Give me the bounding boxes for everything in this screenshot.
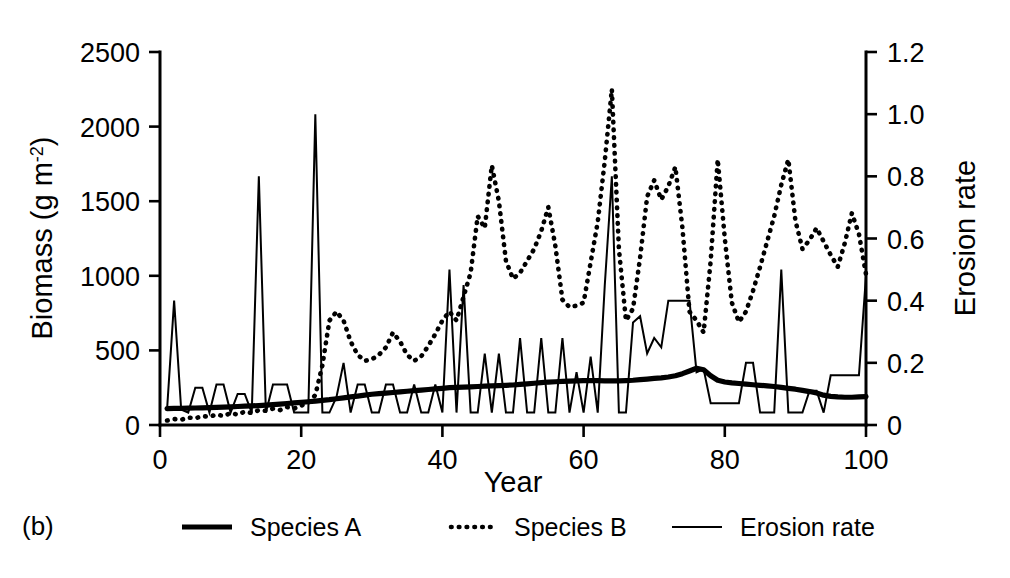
x-tick-label: 80 — [710, 445, 740, 475]
y-left-tick-label: 2500 — [80, 38, 140, 68]
legend-label-species-a: Species A — [250, 513, 362, 541]
y-right-ticks — [866, 52, 877, 425]
y-left-tick-label: 0 — [125, 411, 140, 441]
legend-label-erosion-rate: Erosion rate — [740, 513, 875, 541]
chart-legend: Species A Species B Erosion rate — [182, 513, 875, 541]
y-right-tick-label: 0 — [887, 411, 902, 441]
x-tick-label: 20 — [286, 445, 316, 475]
chart-figure: 05001000150020002500 00.20.40.60.81.01.2… — [0, 0, 1010, 578]
y-left-axis-title: Biomass (g m-2) — [26, 137, 58, 340]
x-tick-label: 40 — [427, 445, 457, 475]
y-right-axis-title: Erosion rate — [949, 160, 981, 316]
y-left-tick-label: 1500 — [80, 187, 140, 217]
y-right-tick-label: 1.2 — [887, 38, 925, 68]
y-right-tick-label: 0.4 — [887, 287, 925, 317]
y-right-tick-label: 1.0 — [887, 100, 925, 130]
y-right-tick-label: 0.2 — [887, 349, 925, 379]
legend-item-species-b: Species B — [451, 513, 627, 541]
panel-label: (b) — [22, 511, 54, 541]
x-tick-label: 100 — [843, 445, 888, 475]
y-right-tick-labels: 00.20.40.60.81.01.2 — [887, 38, 925, 441]
x-ticks — [160, 425, 866, 437]
legend-item-erosion-rate: Erosion rate — [672, 513, 875, 541]
chart-svg: 05001000150020002500 00.20.40.60.81.01.2… — [0, 0, 1010, 578]
y-left-tick-labels: 05001000150020002500 — [80, 38, 140, 441]
y-left-axis-title-superscript: -2 — [27, 146, 47, 162]
legend-label-species-b: Species B — [514, 513, 627, 541]
y-right-tick-label: 0.6 — [887, 225, 925, 255]
y-left-axis-title-main: Biomass (g m — [26, 162, 58, 339]
legend-item-species-a: Species A — [182, 513, 362, 541]
x-tick-label: 0 — [152, 445, 167, 475]
y-right-tick-label: 0.8 — [887, 162, 925, 192]
y-left-axis-title-tail: ) — [26, 137, 58, 147]
y-left-tick-label: 500 — [95, 336, 140, 366]
x-axis-title: Year — [484, 466, 543, 498]
y-left-tick-label: 2000 — [80, 113, 140, 143]
y-left-ticks — [149, 52, 160, 425]
plot-series — [167, 89, 866, 420]
y-left-tick-label: 1000 — [80, 262, 140, 292]
series-erosion-rate-line — [167, 114, 866, 412]
x-tick-label: 60 — [569, 445, 599, 475]
axis-lines — [160, 52, 866, 425]
